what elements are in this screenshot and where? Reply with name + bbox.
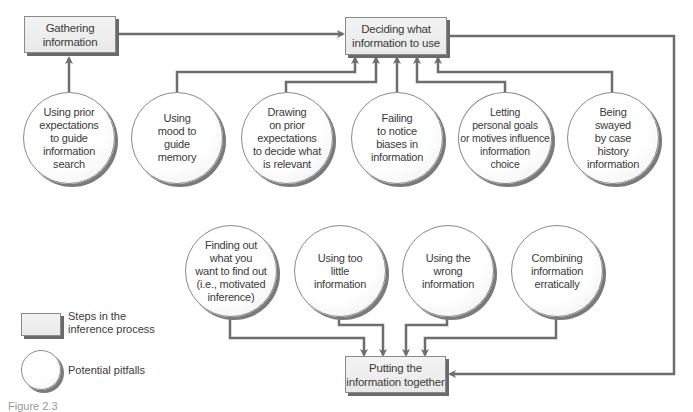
arrow-b1-putting	[230, 316, 364, 355]
pitfall-label: Drawing on prior expectations to decide …	[253, 106, 321, 171]
arrow-b4-putting	[425, 316, 556, 355]
legend-pitfall-label: Potential pitfalls	[68, 364, 145, 377]
arrow-c5-deciding	[417, 58, 505, 92]
pitfall-label: Using too little information	[314, 252, 366, 291]
pitfall-circle: Using the wrong information	[402, 225, 494, 317]
pitfall-circle: Using prior expectations to guide inform…	[23, 92, 115, 184]
pitfall-circle: Failing to notice biases in information	[351, 92, 443, 184]
pitfall-label: Using the wrong information	[422, 252, 474, 291]
legend-pitfall-swatch	[21, 350, 61, 390]
arrow-deciding-putting	[446, 36, 674, 374]
pitfall-circle: Finding out what you want to find out (i…	[185, 225, 277, 317]
arrow-c2-deciding	[177, 58, 355, 92]
arrow-b3-putting	[406, 316, 447, 355]
pitfall-circle: Using too little information	[294, 225, 386, 317]
legend-step-swatch	[21, 313, 61, 336]
pitfall-label: Using mood to guide memory	[158, 112, 197, 164]
arrow-c6-deciding	[438, 58, 612, 92]
step-putting-information-together: Putting the information together	[345, 356, 446, 393]
arrow-c3-deciding	[286, 58, 376, 92]
pitfall-label: Failing to notice biases in information	[371, 112, 423, 164]
pitfall-circle: Letting personal goals or motives influe…	[458, 92, 552, 184]
pitfall-circle: Being swayed by case history information	[567, 92, 659, 184]
step-label: Deciding what information to use	[352, 22, 440, 50]
arrow-b2-putting	[339, 316, 383, 355]
pitfall-circle: Using mood to guide memory	[131, 92, 223, 184]
pitfall-label: Combining information erratically	[531, 252, 583, 291]
pitfall-circle: Combining information erratically	[511, 225, 603, 317]
pitfall-label: Letting personal goals or motives influe…	[460, 106, 549, 171]
step-label: Gathering information	[43, 21, 98, 49]
step-deciding-what-information: Deciding what information to use	[345, 17, 447, 55]
legend-step-label: Steps in the inference process	[68, 310, 155, 336]
pitfall-label: Finding out what you want to find out (i…	[195, 239, 266, 304]
pitfall-label: Using prior expectations to guide inform…	[39, 106, 98, 171]
pitfall-label: Being swayed by case history information	[587, 106, 639, 171]
step-gathering-information: Gathering information	[24, 16, 116, 53]
step-label: Putting the information together	[346, 361, 444, 389]
figure-caption: Figure 2.3	[8, 400, 58, 412]
pitfall-circle: Drawing on prior expectations to decide …	[241, 92, 333, 184]
